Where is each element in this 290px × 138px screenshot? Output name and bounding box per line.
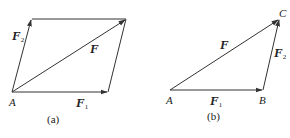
f-label-b: F bbox=[219, 37, 229, 52]
point-a-label: A bbox=[8, 96, 16, 108]
f1-label-a: F1 bbox=[75, 95, 89, 111]
caption-b: (b) bbox=[207, 110, 220, 123]
parallel-right-edge bbox=[108, 19, 126, 92]
point-b-label: B bbox=[259, 94, 266, 106]
point-a-label-b: A bbox=[165, 94, 173, 106]
vector-f-b bbox=[170, 20, 278, 90]
f1-label-b: F1 bbox=[209, 93, 223, 109]
vector-addition-figure: A F1 F2 F (a) A B C F1 F2 F (b) bbox=[0, 0, 290, 138]
f-label-a: F bbox=[89, 41, 99, 56]
f2-label-b: F2 bbox=[273, 45, 287, 61]
parallelogram-diagram bbox=[12, 19, 126, 92]
caption-a: (a) bbox=[47, 113, 60, 126]
point-c-label: C bbox=[279, 7, 287, 19]
f2-label-a: F2 bbox=[11, 28, 25, 44]
triangle-diagram bbox=[170, 20, 279, 90]
diagram-canvas: A F1 F2 F (a) A B C F1 F2 F (b) bbox=[0, 0, 290, 138]
vector-f-a bbox=[12, 20, 125, 92]
